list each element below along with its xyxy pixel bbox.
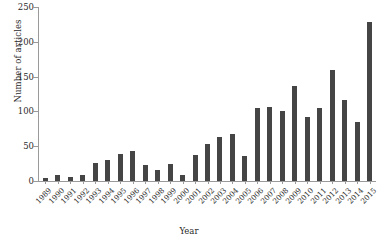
- bar[interactable]: [43, 178, 48, 181]
- bar-slot: [89, 7, 101, 181]
- bar[interactable]: [80, 175, 85, 181]
- y-tick-label: 250: [18, 2, 34, 12]
- x-tick-mark: [170, 182, 171, 184]
- bar-slot: [264, 7, 276, 181]
- x-tick-mark: [120, 182, 121, 184]
- bar[interactable]: [355, 122, 360, 181]
- bar-slot: [164, 7, 176, 181]
- x-tick-mark: [83, 182, 84, 184]
- bar[interactable]: [242, 156, 247, 181]
- bar[interactable]: [118, 154, 123, 181]
- bar-slot: [339, 7, 351, 181]
- x-tick-mark: [232, 182, 233, 184]
- x-tick-mark: [208, 182, 209, 184]
- bar[interactable]: [230, 134, 235, 181]
- x-tick-mark: [282, 182, 283, 184]
- bar[interactable]: [93, 163, 98, 181]
- bar[interactable]: [305, 117, 310, 181]
- x-tick-mark: [95, 182, 96, 184]
- bar-slot: [64, 7, 76, 181]
- x-tick-mark: [245, 182, 246, 184]
- x-tick-mark: [345, 182, 346, 184]
- bar[interactable]: [143, 165, 148, 181]
- bar-slot: [39, 7, 51, 181]
- bar-slot: [101, 7, 113, 181]
- x-tick-mark: [295, 182, 296, 184]
- bar[interactable]: [280, 111, 285, 181]
- bar[interactable]: [342, 100, 347, 181]
- bar[interactable]: [105, 160, 110, 181]
- x-tick-mark: [108, 182, 109, 184]
- bar-slot: [126, 7, 138, 181]
- x-tick-mark: [257, 182, 258, 184]
- x-tick-mark: [220, 182, 221, 184]
- bar-slot: [226, 7, 238, 181]
- bar-slot: [289, 7, 301, 181]
- bar[interactable]: [317, 108, 322, 181]
- x-tick-mark: [357, 182, 358, 184]
- y-tick-label: 200: [18, 37, 34, 47]
- bar[interactable]: [292, 86, 297, 181]
- x-tick-mark: [45, 182, 46, 184]
- bar[interactable]: [330, 70, 335, 181]
- bar-slot: [176, 7, 188, 181]
- x-tick-mark: [158, 182, 159, 184]
- bar-slot: [276, 7, 288, 181]
- x-axis-label: Year: [0, 226, 378, 236]
- bar[interactable]: [267, 107, 272, 181]
- bar[interactable]: [217, 137, 222, 181]
- bar-slot: [239, 7, 251, 181]
- bar[interactable]: [367, 22, 372, 181]
- x-tick-mark: [332, 182, 333, 184]
- plot-area: [39, 7, 376, 181]
- bar[interactable]: [193, 155, 198, 181]
- x-tick-mark: [270, 182, 271, 184]
- bar-slot: [314, 7, 326, 181]
- x-axis-ticks: 1989199019911992199319941995199619971998…: [39, 182, 376, 222]
- bar[interactable]: [68, 177, 73, 181]
- bar-slot: [189, 7, 201, 181]
- x-tick-mark: [183, 182, 184, 184]
- bar-slot: [139, 7, 151, 181]
- bar-slot: [151, 7, 163, 181]
- bar[interactable]: [180, 175, 185, 181]
- bar-slot: [351, 7, 363, 181]
- bar-slot: [214, 7, 226, 181]
- x-tick-mark: [307, 182, 308, 184]
- bar-slot: [301, 7, 313, 181]
- bar[interactable]: [255, 108, 260, 181]
- bar-slot: [51, 7, 63, 181]
- y-tick-label: 100: [18, 106, 34, 116]
- bar-slot: [251, 7, 263, 181]
- x-tick-mark: [320, 182, 321, 184]
- x-tick-mark: [70, 182, 71, 184]
- bar[interactable]: [168, 164, 173, 181]
- bar[interactable]: [155, 170, 160, 181]
- x-tick-mark: [195, 182, 196, 184]
- bar[interactable]: [55, 175, 60, 181]
- x-tick-mark: [133, 182, 134, 184]
- bar[interactable]: [130, 151, 135, 181]
- bar-chart-figure: Number of articles 050100150200250 19891…: [0, 0, 378, 241]
- bar-slot: [114, 7, 126, 181]
- x-tick-mark: [370, 182, 371, 184]
- x-tick-mark: [58, 182, 59, 184]
- bar-slot: [326, 7, 338, 181]
- bar-slot: [364, 7, 376, 181]
- bar-slot: [201, 7, 213, 181]
- bar-slot: [76, 7, 88, 181]
- bar[interactable]: [205, 144, 210, 181]
- x-tick-mark: [145, 182, 146, 184]
- y-tick-label: 150: [18, 72, 34, 82]
